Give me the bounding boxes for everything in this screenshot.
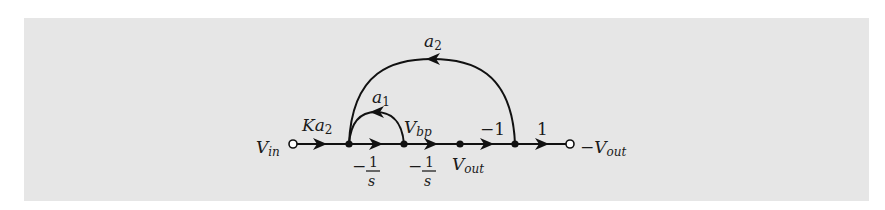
gain-minus-1-over-s-2: − 1 s	[408, 154, 436, 189]
node-1	[345, 140, 352, 147]
gain-ka2: Ka2	[301, 115, 332, 137]
gain-minus-1-over-s-1: − 1 s	[352, 154, 380, 189]
node-vbp	[400, 140, 407, 147]
gain-minus-1: −1	[480, 119, 505, 139]
label-neg-vout: −Vout	[580, 137, 626, 159]
node-4	[511, 140, 518, 147]
source-node-vin	[289, 140, 297, 148]
gain-a1: a1	[372, 87, 390, 109]
node-vout	[456, 140, 463, 147]
svg-text:−: −	[352, 156, 366, 176]
svg-text:s: s	[424, 173, 431, 189]
gain-1: 1	[537, 119, 548, 139]
svg-text:−: −	[408, 156, 422, 176]
svg-text:s: s	[368, 173, 375, 189]
svg-text:1: 1	[369, 154, 378, 170]
feedback-arc-a1	[349, 112, 404, 144]
signal-flow-graph: Vin Ka2 a1 a2 Vbp −1 1 −Vout Vout − 1 s …	[0, 0, 885, 210]
svg-text:1: 1	[425, 154, 434, 170]
label-vbp: Vbp	[404, 117, 432, 139]
sink-node-neg-vout	[566, 140, 574, 148]
label-vout: Vout	[452, 154, 484, 176]
label-vin: Vin	[256, 137, 280, 159]
gain-a2: a2	[424, 31, 442, 53]
